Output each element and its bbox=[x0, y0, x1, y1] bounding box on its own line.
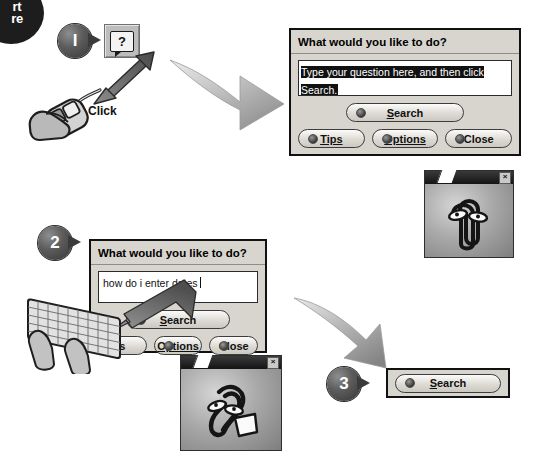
paperclip-assistant-icon bbox=[442, 188, 496, 254]
dialog-1-title: What would you like to do? bbox=[291, 30, 519, 54]
hands-on-keyboard-icon bbox=[14, 288, 132, 374]
dialog-1-question-input[interactable]: Type your question here, and then click … bbox=[298, 60, 512, 96]
dialog-2-title: What would you like to do? bbox=[91, 241, 265, 265]
step-2-badge: 2 bbox=[38, 226, 72, 260]
dialog-1-search-button[interactable]: SSearchearch bbox=[346, 103, 464, 122]
step-3-badge-tail bbox=[357, 376, 370, 390]
dialog-2-close-button[interactable]: Close bbox=[209, 336, 258, 355]
dialog-2-options-button[interactable]: Options bbox=[154, 336, 203, 355]
step-3-number: 3 bbox=[327, 367, 361, 401]
step-3-badge: 3 bbox=[327, 367, 361, 401]
dialog-1-question-value: Type your question here, and then click … bbox=[301, 66, 484, 96]
dialog-1-search-label: SSearchearch bbox=[387, 107, 424, 119]
bullet-icon bbox=[356, 108, 366, 118]
dialog-1-close-button[interactable]: Close bbox=[445, 129, 512, 148]
dialog-1: What would you like to do? Type your que… bbox=[289, 28, 521, 156]
step-3-search-button[interactable]: Search bbox=[395, 374, 501, 393]
assistant-2-close-icon[interactable]: × bbox=[267, 357, 279, 369]
text-caret-icon bbox=[337, 84, 338, 95]
bullet-icon bbox=[219, 341, 229, 351]
dialog-1-options-button[interactable]: Options bbox=[372, 129, 439, 148]
bullet-icon bbox=[455, 134, 465, 144]
step-1-badge-tail bbox=[88, 33, 101, 47]
assistant-1-body bbox=[425, 184, 513, 257]
step-1-badge: I bbox=[58, 24, 92, 58]
dialog-1-tips-button[interactable]: Tips bbox=[298, 129, 365, 148]
step-2-number: 2 bbox=[38, 226, 72, 260]
assistant-2-speech-notch bbox=[193, 355, 213, 368]
bullet-icon bbox=[164, 341, 174, 351]
step-3-search-panel: Search bbox=[386, 368, 510, 398]
dialog-1-close-label: Close bbox=[464, 133, 494, 145]
corner-badge-line2: re bbox=[11, 13, 23, 25]
step-2-badge-tail bbox=[68, 235, 81, 249]
assistant-2-titlebar: × bbox=[181, 356, 281, 369]
corner-badge: rt re bbox=[0, 0, 44, 44]
bullet-icon bbox=[405, 378, 415, 388]
assistant-1-close-icon[interactable]: × bbox=[499, 172, 511, 184]
assistant-window-2: × bbox=[180, 355, 282, 451]
assistant-2-body bbox=[181, 369, 281, 450]
step-3-search-label: Search bbox=[430, 377, 467, 389]
paperclip-assistant-writing-icon bbox=[199, 376, 263, 444]
assistant-window-1: × bbox=[424, 170, 514, 258]
assistant-1-speech-notch bbox=[437, 170, 457, 183]
step-1-number: I bbox=[58, 24, 92, 58]
dialog-1-tips-label: Tips bbox=[320, 133, 342, 145]
pointer-arrow-to-help-icon bbox=[92, 48, 162, 108]
bullet-icon bbox=[308, 134, 318, 144]
curved-arrow-right-icon bbox=[168, 52, 288, 136]
bullet-icon bbox=[382, 134, 392, 144]
assistant-1-titlebar: × bbox=[425, 171, 513, 184]
